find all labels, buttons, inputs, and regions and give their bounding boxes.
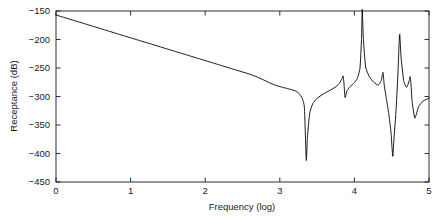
x-tick-label: 5 — [426, 185, 431, 196]
chart-background — [0, 0, 442, 217]
y-tick-label: −350 — [29, 119, 50, 130]
x-tick-label: 2 — [203, 185, 208, 196]
y-tick-label: −200 — [29, 34, 50, 45]
figure-container: 012345 −450−400−350−300−250−200−150 Freq… — [0, 0, 442, 217]
y-tick-label: −300 — [29, 91, 50, 102]
y-tick-label: −400 — [29, 148, 50, 159]
x-tick-label: 1 — [128, 185, 133, 196]
y-tick-label: −250 — [29, 62, 50, 73]
x-axis-title: Frequency (log) — [209, 201, 276, 212]
y-tick-label: −450 — [29, 176, 50, 187]
x-tick-label: 3 — [277, 185, 282, 196]
receptance-frf-chart: 012345 −450−400−350−300−250−200−150 Freq… — [0, 0, 442, 217]
x-tick-label: 0 — [53, 185, 58, 196]
y-tick-label: −150 — [29, 5, 50, 16]
x-tick-label: 4 — [352, 185, 357, 196]
y-axis-title: Receptance (dB) — [8, 60, 19, 131]
